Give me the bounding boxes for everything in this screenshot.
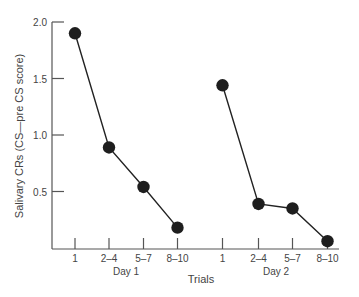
x-tick-label: 1 xyxy=(72,253,78,264)
day2-group-label: Day 2 xyxy=(263,266,290,277)
x-ticks xyxy=(75,238,328,249)
y-tick-label: 2.0 xyxy=(33,17,47,28)
y-tick-label: 0.5 xyxy=(33,187,47,198)
series-day1 xyxy=(69,27,184,234)
x-tick-labels-day1: 1 2–4 5–7 8–10 Day 1 xyxy=(72,253,189,277)
x-tick-labels-day2: 1 2–4 5–7 8–10 Day 2 xyxy=(220,253,339,277)
x-tick-label: 5–7 xyxy=(284,253,301,264)
y-ticks: 2.0 1.5 1.0 0.5 xyxy=(33,17,64,198)
y-tick-label: 1.5 xyxy=(33,74,47,85)
x-tick-label: 2–4 xyxy=(250,253,267,264)
x-axis-title: Trials xyxy=(188,273,215,285)
data-point xyxy=(216,79,228,91)
y-tick-label: 1.0 xyxy=(33,130,47,141)
data-point xyxy=(137,181,149,193)
x-tick-label: 1 xyxy=(220,253,226,264)
data-point xyxy=(69,27,81,39)
series-day2 xyxy=(216,79,333,247)
x-tick-label: 2–4 xyxy=(101,253,118,264)
data-point xyxy=(321,235,333,247)
series-line xyxy=(75,33,178,227)
series-line xyxy=(223,85,328,241)
y-axis-title: Salivary CRs (CS—pre CS score) xyxy=(13,54,25,218)
x-tick-label: 5–7 xyxy=(135,253,152,264)
data-point xyxy=(103,141,115,153)
x-tick-label: 8–10 xyxy=(316,253,339,264)
data-point xyxy=(286,202,298,214)
day1-group-label: Day 1 xyxy=(113,266,140,277)
x-tick-label: 8–10 xyxy=(166,253,189,264)
data-point xyxy=(252,198,264,210)
data-point xyxy=(171,221,183,233)
line-chart: 2.0 1.5 1.0 0.5 Salivary CRs (CS—pre CS … xyxy=(0,0,359,297)
